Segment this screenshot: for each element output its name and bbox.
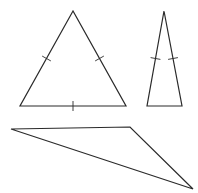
scalene-obtuse-triangle [11,127,193,189]
equilateral-triangle [20,11,126,111]
scalene-obtuse-triangle-outline [11,127,193,189]
isosceles-triangle-outline [147,11,182,106]
isosceles-triangle [147,11,182,106]
equilateral-triangle-outline [20,11,126,106]
congruence-tick-mark [42,56,51,61]
congruence-tick-mark [95,56,104,61]
triangles-diagram [0,0,198,193]
